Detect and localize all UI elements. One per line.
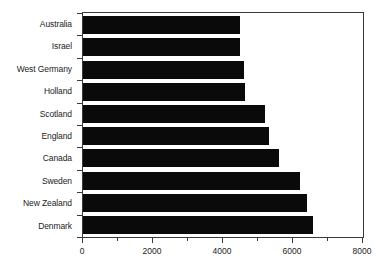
category-label-holland: Holland xyxy=(0,80,76,102)
category-label-canada: Canada xyxy=(0,147,76,169)
x-axis-labels: 02000400060008000 xyxy=(0,245,384,259)
bar-row xyxy=(83,147,363,169)
x-tick-label-0: 0 xyxy=(80,245,85,257)
x-tick-minor xyxy=(327,238,328,241)
bar-row xyxy=(83,103,363,125)
category-label-denmark: Denmark xyxy=(0,215,76,237)
bar-israel xyxy=(83,38,240,56)
x-tick-minor xyxy=(117,238,118,241)
bar-new-zealand xyxy=(83,194,307,212)
x-tick-minor xyxy=(187,238,188,241)
category-label-scotland: Scotland xyxy=(0,103,76,125)
bar-row xyxy=(83,169,363,191)
category-label-sweden: Sweden xyxy=(0,170,76,192)
x-tick-label-4000: 4000 xyxy=(213,245,232,257)
bar-row xyxy=(83,14,363,36)
bar-chart: Australia Israel West Germany Holland Sc… xyxy=(0,0,384,270)
x-tick-major xyxy=(292,238,293,243)
x-tick-major xyxy=(152,238,153,243)
category-label-west-germany: West Germany xyxy=(0,58,76,80)
bar-canada xyxy=(83,149,279,167)
x-tick-major xyxy=(82,238,83,243)
bar-australia xyxy=(83,16,240,34)
category-axis: Australia Israel West Germany Holland Sc… xyxy=(0,13,76,237)
bar-england xyxy=(83,127,269,145)
bar-row xyxy=(83,58,363,80)
bar-denmark xyxy=(83,216,313,234)
x-tick-major xyxy=(362,238,363,243)
x-tick-label-8000: 8000 xyxy=(353,245,372,257)
bars-layer xyxy=(83,13,363,237)
bar-row xyxy=(83,192,363,214)
bar-row xyxy=(83,36,363,58)
category-label-new-zealand: New Zealand xyxy=(0,192,76,214)
x-axis-ticks xyxy=(82,238,365,243)
bar-row xyxy=(83,125,363,147)
bar-holland xyxy=(83,83,245,101)
bar-sweden xyxy=(83,172,300,190)
bar-scotland xyxy=(83,105,265,123)
x-tick-label-2000: 2000 xyxy=(143,245,162,257)
bar-west-germany xyxy=(83,61,244,79)
category-label-england: England xyxy=(0,125,76,147)
x-tick-major xyxy=(222,238,223,243)
x-tick-label-6000: 6000 xyxy=(283,245,302,257)
bar-row xyxy=(83,214,363,236)
category-label-australia: Australia xyxy=(0,13,76,35)
plot-area xyxy=(82,12,364,238)
x-tick-minor xyxy=(257,238,258,241)
bar-row xyxy=(83,81,363,103)
category-label-israel: Israel xyxy=(0,35,76,57)
